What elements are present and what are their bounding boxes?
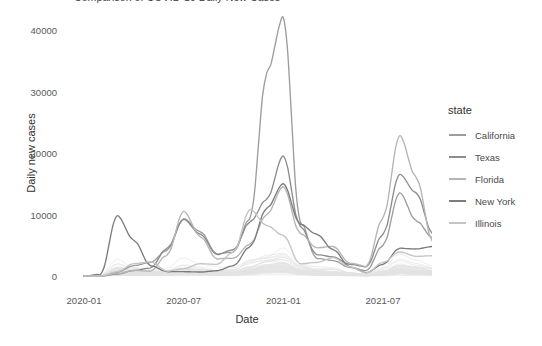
legend-title: state	[448, 104, 542, 116]
y-tick-20000: 20000	[31, 148, 57, 159]
legend: state CaliforniaTexasFloridaNew YorkIlli…	[448, 104, 542, 234]
legend-label: New York	[475, 196, 515, 207]
y-tick-40000: 40000	[31, 25, 57, 36]
y-tick-10000: 10000	[31, 209, 57, 220]
legend-label: Florida	[475, 174, 504, 185]
legend-item-illinois[interactable]: Illinois	[448, 212, 542, 234]
legend-item-new-york[interactable]: New York	[448, 190, 542, 212]
legend-item-texas[interactable]: Texas	[448, 146, 542, 168]
chart-title: Comparison of COVID-19 Daily New Cases	[74, 0, 280, 3]
legend-line-icon	[448, 151, 467, 163]
legend-line-icon	[448, 195, 467, 207]
legend-line-icon	[448, 217, 467, 229]
legend-line-icon	[448, 129, 467, 141]
y-axis-tick-labels: 010000200003000040000	[0, 0, 57, 346]
x-axis-title: Date	[62, 313, 432, 325]
y-tick-30000: 30000	[31, 86, 57, 97]
legend-item-florida[interactable]: Florida	[448, 168, 542, 190]
x-tick-2021-07: 2021-07	[366, 295, 401, 306]
legend-items: CaliforniaTexasFloridaNew YorkIllinois	[448, 124, 542, 234]
state-line-new-york	[84, 184, 432, 276]
plot-lines	[62, 8, 432, 287]
legend-label: Illinois	[475, 218, 501, 229]
legend-line-icon	[448, 173, 467, 185]
legend-label: California	[475, 130, 515, 141]
plot-panel	[62, 8, 432, 287]
legend-label: Texas	[475, 152, 500, 163]
x-tick-2020-01: 2020-01	[67, 295, 102, 306]
y-tick-0: 0	[52, 271, 57, 282]
legend-item-california[interactable]: California	[448, 124, 542, 146]
chart-figure: Comparison of COVID-19 Daily New Cases D…	[0, 0, 542, 346]
x-tick-2020-07: 2020-07	[166, 295, 201, 306]
x-tick-2021-01: 2021-01	[266, 295, 301, 306]
